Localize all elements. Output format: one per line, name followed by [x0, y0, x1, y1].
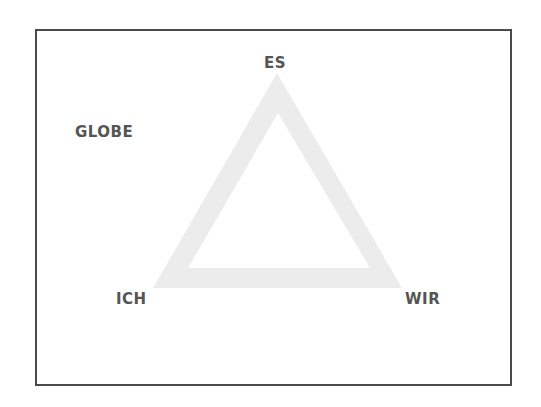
- label-es: ES: [264, 54, 286, 72]
- label-globe: GLOBE: [75, 123, 133, 141]
- label-wir: WIR: [405, 290, 440, 308]
- label-ich: ICH: [116, 290, 147, 308]
